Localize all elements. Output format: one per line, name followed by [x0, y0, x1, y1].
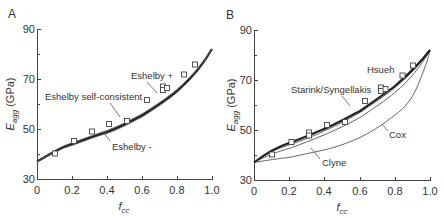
data-point [53, 151, 58, 156]
svg-text:70: 70 [23, 73, 35, 85]
data-point [72, 139, 77, 144]
svg-text:50: 50 [240, 124, 252, 136]
label-cox: Cox [389, 129, 406, 140]
label-eshelby-plus: Eshelby + [131, 70, 173, 81]
data-point [383, 87, 388, 92]
panel-b-y-tick-labels: 90 70 50 30 [240, 24, 252, 186]
data-point [145, 98, 150, 103]
svg-text:1.0: 1.0 [422, 185, 437, 197]
data-point [307, 133, 312, 138]
label-hsueh: Hsueh [367, 64, 394, 75]
leader-clyne [311, 148, 320, 159]
leader-eshelby-plus [147, 82, 157, 93]
panel-b: B 90 70 50 30 0 0.2 0.4 [225, 8, 438, 216]
svg-text:90: 90 [23, 23, 35, 35]
svg-text:0.2: 0.2 [281, 185, 296, 197]
svg-text:0.8: 0.8 [169, 184, 184, 196]
curve-hsueh [254, 50, 430, 163]
panel-a-y-ticks [38, 30, 42, 155]
svg-text:0.6: 0.6 [134, 184, 149, 196]
panel-b-data-markers [270, 63, 416, 157]
panel-b-x-axis-label: fcc [336, 201, 347, 216]
panel-a-letter: A [8, 7, 16, 21]
svg-text:0: 0 [251, 185, 257, 197]
label-eshelby-minus: Eshelby - [112, 141, 152, 152]
panel-a-y-axis-label: Eagg(GPa) [4, 77, 19, 130]
data-point [411, 63, 416, 68]
panel-a-annotations: Eshelby + Eshelby self-consistent Eshelb… [45, 70, 173, 152]
panel-a-x-ticks [73, 176, 213, 180]
svg-text:0.4: 0.4 [316, 185, 331, 197]
panel-a-x-tick-labels: 0 0.2 0.4 0.6 0.8 1.0 [34, 184, 220, 196]
svg-text:70: 70 [240, 74, 252, 86]
panel-b-y-axis-label: Eagg(GPa) [225, 78, 240, 131]
label-eshelby-self-consistent: Eshelby self-consistent [45, 91, 143, 102]
label-clyne: Clyne [322, 157, 346, 168]
data-point [325, 123, 330, 128]
data-point [125, 119, 130, 124]
data-point [165, 86, 170, 91]
panel-b-x-ticks [290, 177, 431, 181]
data-point [107, 122, 112, 127]
data-point [363, 99, 368, 104]
data-point [193, 62, 198, 67]
panel-b-y-ticks [255, 31, 259, 156]
leader-cox [382, 124, 388, 131]
data-point [343, 120, 348, 125]
svg-text:1.0: 1.0 [204, 184, 219, 196]
leader-eshelby-self-consistent [110, 103, 120, 117]
svg-text:50: 50 [23, 123, 35, 135]
svg-text:0.2: 0.2 [64, 184, 79, 196]
svg-text:0.4: 0.4 [99, 184, 114, 196]
data-point [90, 129, 95, 134]
data-point [182, 72, 187, 77]
panel-b-letter: B [226, 8, 234, 22]
svg-text:0.6: 0.6 [352, 185, 367, 197]
panel-b-x-tick-labels: 0 0.2 0.4 0.6 0.8 1.0 [251, 185, 438, 197]
panel-b-curves [254, 50, 430, 163]
data-point [270, 152, 275, 157]
panel-a: A 90 70 50 30 0 0.2 [4, 7, 220, 215]
svg-text:0: 0 [34, 184, 40, 196]
label-starink-syngellakis: Starink/Syngellakis [291, 84, 372, 95]
data-point [289, 140, 294, 145]
data-point [400, 73, 405, 78]
svg-text:90: 90 [240, 24, 252, 36]
figure: A 90 70 50 30 0 0.2 [0, 0, 444, 218]
panel-a-y-tick-labels: 90 70 50 30 [23, 23, 35, 185]
panel-a-x-axis-label: fcc [118, 200, 129, 215]
leader-starink-syngellakis [342, 96, 350, 106]
svg-text:0.8: 0.8 [387, 185, 402, 197]
